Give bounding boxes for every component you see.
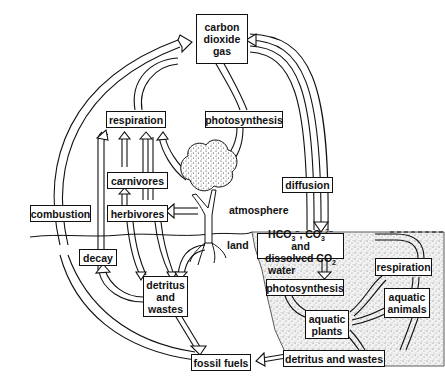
node-detritus-and-wastes-land: detritus and wastes xyxy=(143,276,188,317)
node-decay: decay xyxy=(79,249,117,266)
node-respiration-land: respiration xyxy=(106,111,166,128)
node-dissolved-carbon: HCO3−, CO32− and dissolved CO2 xyxy=(257,233,344,259)
node-fossil-fuels: fossil fuels xyxy=(191,354,251,371)
label-atmosphere: atmosphere xyxy=(229,204,289,216)
node-respiration-water: respiration xyxy=(375,258,432,276)
node-combustion: combustion xyxy=(30,205,91,222)
node-photosynthesis-water: photosynthesis xyxy=(266,279,344,296)
node-carnivores: carnivores xyxy=(107,172,168,189)
node-photosynthesis-land: photosynthesis xyxy=(205,111,283,128)
node-aquatic-animals: aquatic animals xyxy=(384,288,430,318)
node-diffusion: diffusion xyxy=(282,177,333,193)
node-detritus-and-wastes-water: detritus and wastes xyxy=(283,350,385,367)
node-herbivores: herbivores xyxy=(107,205,168,222)
node-carbon-dioxide-gas: carbon dioxide gas xyxy=(196,14,248,64)
ground-line xyxy=(30,232,252,237)
label-land: land xyxy=(227,239,249,251)
node-aquatic-plants: aquatic plants xyxy=(305,310,349,339)
label-water: water xyxy=(268,264,295,276)
